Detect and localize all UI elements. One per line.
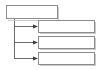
node-child-1[interactable] (39, 21, 97, 35)
node-child-3-shadow (40, 65, 96, 66)
connector-group (15, 19, 39, 61)
node-child-1-shadow-right (95, 22, 96, 33)
node-child-3-shadow-right (95, 54, 96, 65)
arrowhead-icon-3 (33, 57, 38, 61)
node-child-1-box[interactable] (39, 21, 95, 33)
node-root-box[interactable] (7, 6, 58, 19)
node-root-shadow-right (58, 7, 59, 20)
node-child-1-shadow (40, 33, 96, 34)
node-child-2[interactable] (39, 37, 97, 51)
arrowhead-icon-1 (33, 25, 38, 29)
node-child-3-box[interactable] (39, 53, 95, 65)
node-child-2-shadow (40, 49, 96, 50)
node-child-2-shadow-right (95, 38, 96, 49)
tree-diagram (0, 0, 101, 70)
node-child-3[interactable] (39, 53, 97, 67)
arrowhead-icon-2 (33, 41, 38, 45)
node-root[interactable] (7, 6, 60, 22)
tree-diagram-svg (0, 0, 101, 70)
node-child-2-box[interactable] (39, 37, 95, 49)
